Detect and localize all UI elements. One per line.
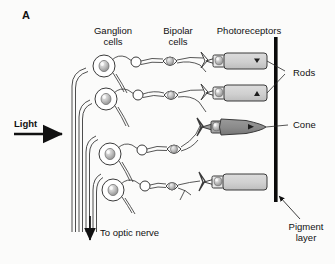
label-pigment-layer: Pigment layer xyxy=(280,222,332,243)
label-light: Light xyxy=(14,119,37,130)
synapse-knob-2 xyxy=(133,90,143,100)
label-cone: Cone xyxy=(293,120,316,131)
ganglion-cell-4 xyxy=(102,179,124,201)
synapse-knob-1 xyxy=(131,57,141,67)
rod-outer-segment-4 xyxy=(223,174,267,190)
rod-outer-segment-2 xyxy=(224,85,267,101)
ganglion-cell-3 xyxy=(99,143,121,165)
label-to-optic-nerve: To optic nerve xyxy=(100,228,159,239)
label-rods: Rods xyxy=(293,68,315,79)
panel-label: A xyxy=(22,10,30,21)
column-header-bipolar-cells: Bipolar cells xyxy=(152,26,204,47)
rod-outer-segment-1 xyxy=(224,53,267,69)
synapse-knob-3 xyxy=(137,145,147,155)
synapse-knob-4 xyxy=(140,181,150,191)
ganglion-cell-2 xyxy=(95,88,117,110)
ganglion-cell-1 xyxy=(93,55,115,77)
column-header-photoreceptors: Photoreceptors xyxy=(207,26,291,37)
pigment-layer-bar xyxy=(274,37,278,202)
column-header-ganglion-cells: Ganglion cells xyxy=(82,26,144,47)
